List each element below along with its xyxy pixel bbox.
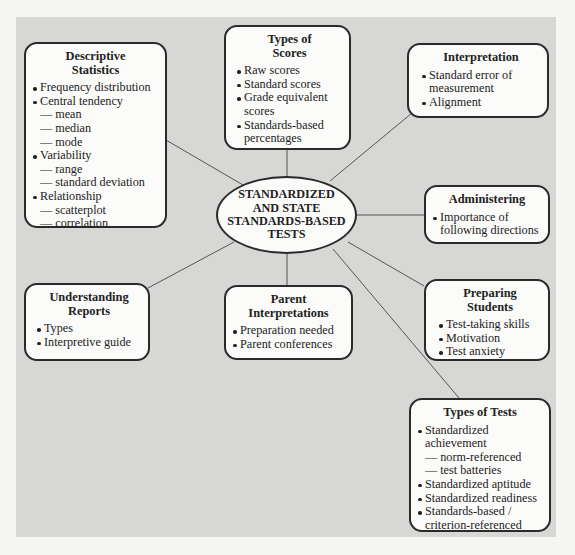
node-item-list: Standard error of measurement Alignment xyxy=(421,69,541,110)
node-title: Preparing Students xyxy=(438,287,542,314)
node-title-line: Types of Tests xyxy=(417,406,543,420)
list-item: Standards-based xyxy=(236,119,343,133)
list-item: Standards-based / xyxy=(417,505,543,519)
list-item: Relationship xyxy=(32,190,159,204)
list-item: Alignment xyxy=(421,96,541,110)
list-item: Raw scores xyxy=(236,64,343,78)
node-item-list: Preparation needed Parent conferences xyxy=(232,324,345,351)
node-understanding-reports: Understanding Reports Types Interpretive… xyxy=(24,283,150,361)
node-types-of-tests: Types of Tests Standardized achievement … xyxy=(409,398,551,532)
node-title-line: Preparing xyxy=(438,287,542,301)
node-item-list: Frequency distribution Central tendency … xyxy=(32,81,159,231)
list-item: Standardized xyxy=(417,424,543,438)
list-subitem: — range xyxy=(32,163,159,177)
list-item: Standard error of xyxy=(421,69,541,83)
list-subitem: — test batteries xyxy=(417,464,543,478)
node-title-line: Interpretations xyxy=(232,307,345,321)
node-title-line: Types of xyxy=(236,33,343,47)
node-title: Administering xyxy=(432,193,542,207)
node-title: Descriptive Statistics xyxy=(32,50,159,77)
node-item-list: Test-taking skills Motivation Test anxie… xyxy=(438,318,542,359)
list-subitem: — correlation xyxy=(32,217,159,231)
node-title-line: Parent xyxy=(232,293,345,307)
list-item: Importance of xyxy=(432,211,542,225)
list-subitem: — norm-referenced xyxy=(417,451,543,465)
node-title: Types of Tests xyxy=(417,406,543,420)
central-topic-line: STANDARDS-BASED xyxy=(227,215,345,228)
node-title-line: Students xyxy=(438,301,542,315)
node-title: Interpretation xyxy=(421,51,541,65)
central-topic-line: AND STATE xyxy=(227,202,345,215)
node-parent-interpretations: Parent Interpretations Preparation neede… xyxy=(224,285,353,360)
list-item: Central tendency xyxy=(32,95,159,109)
list-subitem: — scatterplot xyxy=(32,204,159,218)
node-item-list: Importance of following directions xyxy=(432,211,542,238)
list-item: Variability xyxy=(32,149,159,163)
list-item: Standardized aptitude xyxy=(417,478,543,492)
node-interpretation: Interpretation Standard error of measure… xyxy=(407,43,549,118)
list-item: Standard scores xyxy=(236,78,343,92)
list-subitem: following directions xyxy=(432,224,542,238)
node-preparing-students: Preparing Students Test-taking skills Mo… xyxy=(424,279,550,361)
node-descriptive-statistics: Descriptive Statistics Frequency distrib… xyxy=(24,42,167,228)
list-subitem: — mode xyxy=(32,136,159,150)
list-subitem: — mean xyxy=(32,108,159,122)
node-administering: Administering Importance of following di… xyxy=(424,185,550,244)
list-subitem: criterion-referenced xyxy=(417,519,543,533)
node-title-line: Statistics xyxy=(32,64,159,78)
node-title-line: Descriptive xyxy=(32,50,159,64)
central-topic-ellipse: STANDARDIZED AND STATE STANDARDS-BASED T… xyxy=(216,176,357,254)
node-types-of-scores: Types of Scores Raw scores Standard scor… xyxy=(224,25,351,150)
list-item: Test-taking skills xyxy=(438,318,542,332)
central-topic-line: STANDARDIZED xyxy=(227,188,345,201)
list-item: Parent conferences xyxy=(232,338,345,352)
list-subitem: measurement xyxy=(421,82,541,96)
node-title: Types of Scores xyxy=(236,33,343,60)
list-item: Standardized readiness xyxy=(417,492,543,506)
node-title-line: Reports xyxy=(36,305,142,319)
list-subitem: achievement xyxy=(417,437,543,451)
list-subitem: percentages xyxy=(236,132,343,146)
list-item: Interpretive guide xyxy=(36,336,142,350)
node-title-line: Scores xyxy=(236,47,343,61)
node-item-list: Raw scores Standard scores Grade equival… xyxy=(236,64,343,146)
list-subitem: scores xyxy=(236,105,343,119)
list-item: Frequency distribution xyxy=(32,81,159,95)
central-topic-line: TESTS xyxy=(227,228,345,241)
node-item-list: Types Interpretive guide xyxy=(36,322,142,349)
node-title-line: Understanding xyxy=(36,291,142,305)
list-subitem: — standard deviation xyxy=(32,176,159,190)
node-title-line: Interpretation xyxy=(421,51,541,65)
list-item: Motivation xyxy=(438,332,542,346)
connector-preparing-students xyxy=(348,242,424,286)
list-item: Types xyxy=(36,322,142,336)
list-item: Grade equivalent xyxy=(236,91,343,105)
node-title-line: Administering xyxy=(432,193,542,207)
node-item-list: Standardized achievement — norm-referenc… xyxy=(417,424,543,533)
connector-understanding-reports xyxy=(148,242,234,288)
list-item: Test anxiety xyxy=(438,345,542,359)
node-title: Understanding Reports xyxy=(36,291,142,318)
list-subitem: — median xyxy=(32,122,159,136)
list-item: Preparation needed xyxy=(232,324,345,338)
node-title: Parent Interpretations xyxy=(232,293,345,320)
